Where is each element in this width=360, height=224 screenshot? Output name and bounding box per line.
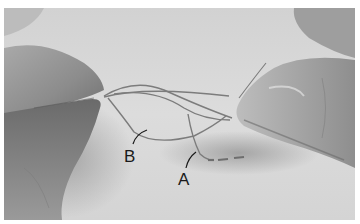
photo: B A [4,8,355,220]
label-b: B [124,148,135,165]
label-a: A [178,171,189,188]
